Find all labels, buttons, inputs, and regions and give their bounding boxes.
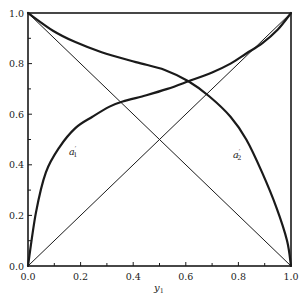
x-tick-label: 0.0 [20,271,35,282]
data-series [28,13,291,266]
y-tick-label: 0.8 [9,58,24,69]
x-tick-label: 0.2 [73,271,88,282]
x-tick-label: 1.0 [283,271,298,282]
curve-label-a1: a′1 [69,145,77,159]
y-tick-label: 0.4 [9,159,24,170]
x-tick-label: 0.4 [126,271,141,282]
y-tick-label: 0.2 [9,210,24,221]
curve-label-a2: a′2 [233,148,241,162]
x-tick-label: 0.8 [231,271,246,282]
y-tick-label: 0.6 [9,109,24,120]
x-tick-label: 0.6 [178,271,193,282]
chart: 0.00.20.40.60.81.00.00.20.40.60.81.0 a′1… [0,0,305,303]
x-axis-label: y1 [153,282,164,295]
y-tick-label: 0.0 [9,261,24,272]
y-tick-label: 1.0 [9,8,24,19]
